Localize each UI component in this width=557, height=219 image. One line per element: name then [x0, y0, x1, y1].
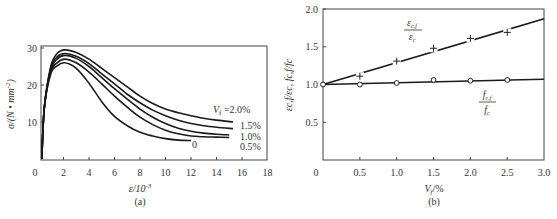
x-tick-label: 18 — [263, 167, 273, 178]
stress-strain-curve — [42, 55, 229, 159]
series-label-strength-ratio: fc,f fc — [479, 89, 496, 116]
x-tick-label: 1.0 — [390, 167, 403, 178]
chart-a-plot-frame — [41, 46, 267, 160]
y-tick-label: 30 — [27, 43, 37, 54]
curve-label-1-5: 1.5% — [240, 120, 261, 131]
x-tick-label: 6 — [112, 167, 117, 178]
chart-b-series — [321, 19, 544, 87]
x-tick-label: 0.5 — [354, 167, 367, 178]
svg-text:fc,f: fc,f — [483, 89, 493, 101]
x-tick-label: 12 — [186, 167, 196, 178]
y-tick-label: 0.5 — [306, 117, 319, 128]
stress-strain-curve — [42, 59, 229, 159]
x-tick-label: 2.0 — [464, 167, 477, 178]
x-tick-label: 2 — [61, 167, 66, 178]
x-tick-label: 10 — [161, 167, 171, 178]
svg-text:εc: εc — [409, 31, 416, 43]
curve-label-0: 0 — [192, 139, 197, 150]
chart-a-x-axis-label: ε/10-3 — [129, 182, 152, 194]
svg-text:εc,f: εc,f — [407, 17, 418, 29]
y-tick-label: 2.0 — [306, 4, 319, 15]
y-tick-label: 20 — [27, 80, 37, 91]
circle-marker — [505, 78, 510, 83]
chart-b-x-axis-label: Vf/% — [424, 183, 443, 196]
x-tick-label: 1.5 — [427, 167, 440, 178]
svg-text:fc: fc — [484, 104, 490, 116]
chart-a-curves — [42, 50, 233, 159]
circle-marker — [357, 82, 362, 87]
y-tick-label: 1.5 — [306, 41, 319, 52]
x-tick-label: 16 — [237, 167, 247, 178]
curve-label-0-5: 0.5% — [240, 141, 261, 152]
chart-b-y-axis-label: εc,f/εc, fc,f/fc — [283, 58, 294, 111]
chart-a: 024681012141618 102030 σ/(N • mm-2) ε/10… — [4, 43, 273, 209]
figure: 024681012141618 102030 σ/(N • mm-2) ε/10… — [0, 0, 557, 219]
circle-marker — [394, 81, 399, 86]
chart-a-caption: (a) — [134, 196, 145, 208]
x-tick-label: 14 — [212, 167, 222, 178]
chart-b-caption: (b) — [428, 196, 440, 208]
circle-marker — [431, 78, 436, 83]
y-tick-label: 1.0 — [306, 79, 319, 90]
chart-a-y-axis-label: σ/(N • mm-2) — [4, 78, 17, 129]
x-tick-label: 0 — [33, 167, 38, 178]
series-label-strain-ratio: εc,f εc — [404, 17, 422, 43]
x-tick-label: 4 — [87, 167, 92, 178]
x-tick-label: 8 — [138, 167, 143, 178]
x-tick-label: 2.5 — [501, 167, 514, 178]
chart-b: 00.51.01.52.02.53.0 0.51.01.52.0 εc,f/εc… — [283, 4, 550, 209]
curve-label-2-0: Vf =2.0% — [213, 104, 250, 117]
stress-strain-curve — [42, 50, 233, 159]
x-tick-label: 0 — [314, 167, 319, 178]
circle-marker — [468, 78, 473, 83]
x-tick-label: 3.0 — [538, 167, 551, 178]
circle-marker — [321, 82, 326, 87]
y-tick-label: 10 — [27, 117, 37, 128]
